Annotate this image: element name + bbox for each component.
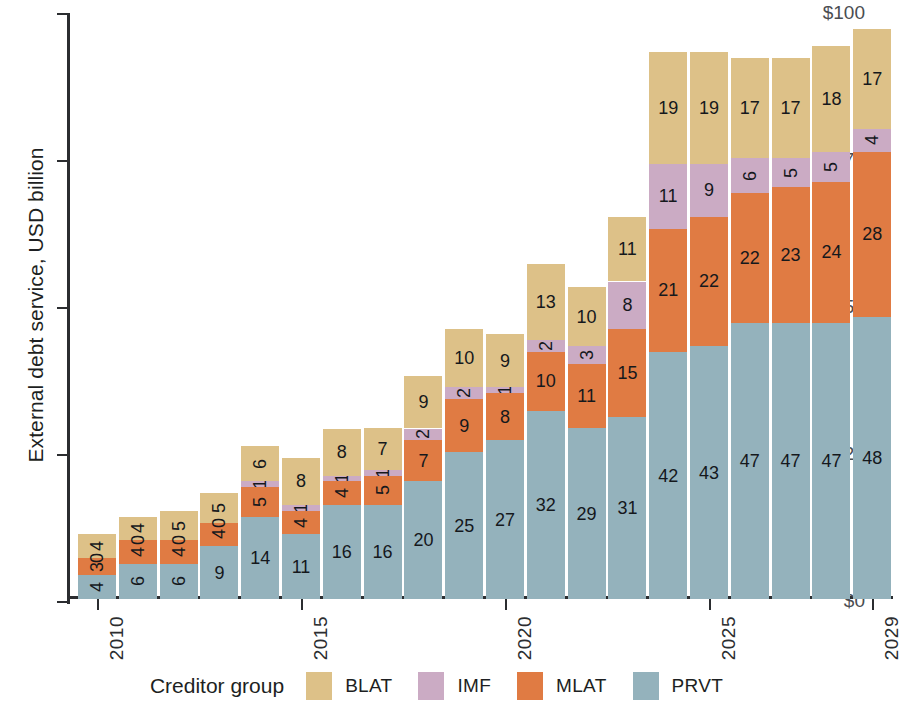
bar-stack[interactable]: 9450 xyxy=(200,493,238,599)
chart-figure: External debt service, USD billion $0$25… xyxy=(0,0,899,711)
bar-segment[interactable]: 6 xyxy=(119,564,157,599)
bar-segment[interactable]: 15 xyxy=(608,329,646,417)
legend-item[interactable]: MLAT xyxy=(517,672,606,700)
bar-stack[interactable]: 6440 xyxy=(119,517,157,599)
bar-segment[interactable]: 29 xyxy=(568,428,606,599)
bar-segment[interactable]: 5 xyxy=(364,476,402,505)
bar-segment[interactable]: 27 xyxy=(486,440,524,599)
bar-segment[interactable]: 4 xyxy=(78,575,116,599)
bar-segment[interactable]: 42 xyxy=(649,352,687,599)
bar-stack[interactable]: 3210213 xyxy=(527,264,565,599)
bar-stack[interactable]: 6450 xyxy=(160,511,198,599)
bar-segment[interactable]: 8 xyxy=(323,429,361,476)
bar-segment[interactable]: 47 xyxy=(731,323,769,599)
bar-segment-label: 0 xyxy=(78,549,116,567)
bar-stack[interactable]: 16418 xyxy=(323,428,361,599)
bar-segment[interactable]: 24 xyxy=(812,182,850,323)
bar-stack[interactable]: 4828417 xyxy=(853,29,891,599)
bar-segment[interactable]: 8 xyxy=(282,458,320,505)
bar-stack[interactable]: 4724518 xyxy=(812,46,850,599)
bar-segment[interactable]: 43 xyxy=(690,346,728,599)
legend-label: BLAT xyxy=(345,675,392,697)
bar-stack[interactable]: 3115811 xyxy=(608,217,646,599)
bar-segment[interactable]: 31 xyxy=(608,417,646,599)
bar-segment[interactable]: 28 xyxy=(853,152,891,317)
bar-segment[interactable]: 2 xyxy=(404,429,442,441)
bar-segment[interactable]: 16 xyxy=(364,505,402,599)
bar-stack[interactable]: 27819 xyxy=(486,334,524,599)
bar-segment[interactable]: 4 xyxy=(323,481,361,505)
bar-segment[interactable]: 11 xyxy=(649,164,687,229)
bar-stack[interactable]: 4340 xyxy=(78,534,116,599)
bar-segment[interactable]: 2 xyxy=(527,340,565,352)
bar-segment[interactable]: 13 xyxy=(527,264,565,340)
bar-segment[interactable]: 5 xyxy=(772,158,810,187)
bar-stack[interactable]: 4322919 xyxy=(690,52,728,599)
bar-segment[interactable]: 10 xyxy=(527,352,565,411)
bar-segment[interactable]: 10 xyxy=(445,329,483,388)
bar-segment[interactable]: 10 xyxy=(568,287,606,346)
bar-stack[interactable]: 4722617 xyxy=(731,58,769,599)
bar-stack[interactable]: 16517 xyxy=(364,428,402,599)
bar-segment[interactable]: 4 xyxy=(853,129,891,153)
bar-segment[interactable]: 2 xyxy=(445,387,483,399)
bar-segment[interactable]: 9 xyxy=(404,376,442,429)
bar-segment[interactable]: 19 xyxy=(690,52,728,164)
bar-segment[interactable]: 16 xyxy=(323,505,361,599)
bar-group: 4340644064509450145161141816418165172072… xyxy=(76,8,893,599)
bar-segment[interactable]: 25 xyxy=(445,452,483,599)
bar-segment[interactable]: 17 xyxy=(853,29,891,129)
bar-segment[interactable]: 6 xyxy=(731,158,769,193)
bar-segment[interactable]: 47 xyxy=(812,323,850,599)
bar-segment[interactable]: 1 xyxy=(323,476,361,482)
bar-segment[interactable]: 9 xyxy=(200,546,238,599)
bar-segment[interactable]: 17 xyxy=(731,58,769,158)
bar-segment[interactable]: 1 xyxy=(241,481,279,487)
bar-stack[interactable]: 2911310 xyxy=(568,287,606,599)
bar-segment[interactable]: 32 xyxy=(527,411,565,599)
bar-segment[interactable]: 6 xyxy=(241,446,279,481)
bar-segment[interactable]: 9 xyxy=(486,334,524,387)
bar-segment[interactable]: 4 xyxy=(282,511,320,535)
legend-item[interactable]: IMF xyxy=(418,672,491,700)
bar-segment[interactable]: 20 xyxy=(404,481,442,599)
legend-item[interactable]: BLAT xyxy=(306,672,392,700)
bar-stack[interactable]: 20729 xyxy=(404,376,442,599)
bar-segment[interactable]: 6 xyxy=(160,564,198,599)
bar-segment[interactable]: 22 xyxy=(731,193,769,322)
bar-segment[interactable]: 5 xyxy=(241,487,279,516)
bar-segment[interactable]: 1 xyxy=(486,387,524,393)
x-axis-tick xyxy=(709,599,711,610)
bar-segment[interactable]: 48 xyxy=(853,317,891,599)
bar-segment[interactable]: 5 xyxy=(812,152,850,181)
bar-segment[interactable]: 11 xyxy=(568,364,606,429)
bar-stack[interactable]: 11418 xyxy=(282,458,320,599)
bar-segment[interactable]: 11 xyxy=(608,217,646,282)
bar-segment[interactable]: 22 xyxy=(690,217,728,346)
bar-segment[interactable]: 9 xyxy=(445,399,483,452)
bar-segment[interactable]: 1 xyxy=(364,470,402,476)
bar-segment[interactable]: 23 xyxy=(772,187,810,322)
legend-item[interactable]: PRVT xyxy=(633,672,724,700)
bar-segment[interactable]: 1 xyxy=(282,505,320,511)
bar-segment[interactable]: 19 xyxy=(649,52,687,164)
bar-segment[interactable]: 11 xyxy=(282,534,320,599)
bar-stack[interactable]: 14516 xyxy=(241,446,279,599)
bar-segment[interactable]: 9 xyxy=(690,164,728,217)
bar-segment[interactable]: 7 xyxy=(364,428,402,469)
bar-segment[interactable]: 18 xyxy=(812,46,850,152)
legend-swatch xyxy=(633,672,659,700)
bar-stack[interactable]: 42211119 xyxy=(649,52,687,599)
bar-stack[interactable]: 259210 xyxy=(445,329,483,599)
y-axis-tick xyxy=(57,13,68,15)
legend-items: BLATIMFMLATPRVT xyxy=(306,672,749,700)
bar-segment[interactable]: 14 xyxy=(241,517,279,599)
bar-segment[interactable]: 47 xyxy=(772,323,810,599)
bar-segment[interactable]: 7 xyxy=(404,440,442,481)
bar-segment[interactable]: 17 xyxy=(772,58,810,158)
bar-segment[interactable]: 3 xyxy=(568,346,606,364)
bar-segment[interactable]: 8 xyxy=(486,393,524,440)
bar-stack[interactable]: 4723517 xyxy=(772,58,810,599)
bar-segment[interactable]: 8 xyxy=(608,282,646,329)
bar-segment[interactable]: 21 xyxy=(649,229,687,352)
